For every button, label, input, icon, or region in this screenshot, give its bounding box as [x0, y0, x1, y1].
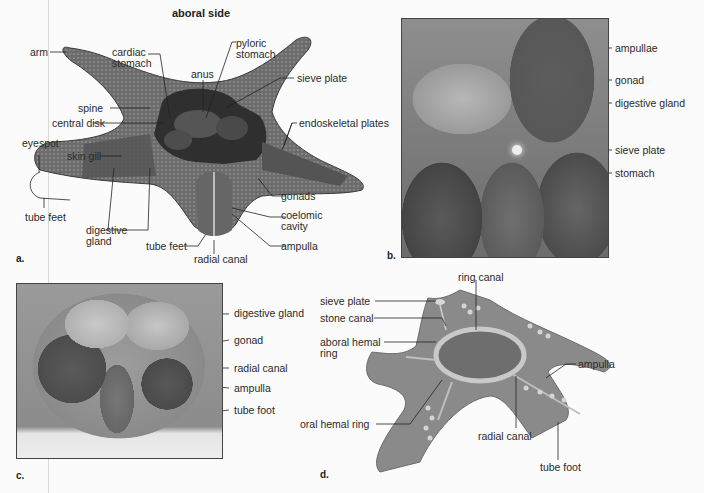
label-coelomic-cavity: coelomic cavity: [281, 210, 325, 232]
panel-b-letter: b.: [387, 250, 396, 261]
label-digestive-gland-b: digestive gland: [615, 98, 685, 109]
label-tube-foot-d: tube foot: [540, 462, 581, 473]
panel-a-letter: a.: [16, 253, 24, 264]
label-tube-foot-c: tube foot: [234, 405, 275, 416]
label-stone-canal: stone canal: [320, 313, 374, 324]
label-endoskeletal-plates: endoskeletal plates: [299, 118, 389, 129]
label-tube-feet-bottom: tube feet: [146, 241, 187, 252]
label-gonads: gonads: [281, 191, 315, 202]
label-ampulla-d: ampulla: [578, 359, 615, 370]
label-ampulla-c: ampulla: [234, 383, 271, 394]
label-radial-canal-c: radial canal: [234, 363, 288, 374]
label-pyloric-stomach: pyloric stomach: [236, 38, 280, 60]
label-eyespot: eyespot: [22, 138, 59, 149]
label-ampulla-a: ampulla: [281, 241, 318, 252]
label-anus: anus: [191, 69, 214, 80]
label-digestive-gland-a: digestive gland: [86, 225, 128, 247]
panel-a-title: aboral side: [172, 7, 230, 19]
panel-c-letter: c.: [16, 470, 24, 481]
panel-c-photo: [16, 283, 223, 459]
label-gonad-c: gonad: [234, 335, 263, 346]
label-central-disk: central disk: [52, 118, 105, 129]
label-sieve-plate-a: sieve plate: [297, 73, 347, 84]
sieve-plate-highlight: [512, 145, 522, 155]
label-digestive-gland-c: digestive gland: [234, 308, 304, 319]
label-oral-hemal-ring: oral hemal ring: [300, 419, 369, 430]
panel-d-letter: d.: [320, 469, 329, 480]
label-radial-canal-a: radial canal: [194, 254, 248, 265]
label-ampullae: ampullae: [615, 43, 658, 54]
panel-b-photo: [401, 18, 609, 258]
label-arm: arm: [30, 47, 48, 58]
label-cardiac-stomach: cardiac stomach: [112, 47, 152, 69]
label-aboral-hemal-ring: aboral hemal ring: [320, 337, 382, 359]
label-sieve-plate-b: sieve plate: [615, 145, 665, 156]
label-radial-canal-d: radial canal: [478, 431, 532, 442]
label-skin-gill: skin gill: [67, 151, 101, 162]
label-spine: spine: [78, 103, 103, 114]
label-sieve-plate-d: sieve plate: [320, 296, 370, 307]
label-tube-feet-left: tube feet: [25, 212, 66, 223]
label-gonad-b: gonad: [615, 75, 644, 86]
label-ring-canal: ring canal: [458, 272, 504, 283]
label-stomach: stomach: [615, 168, 655, 179]
